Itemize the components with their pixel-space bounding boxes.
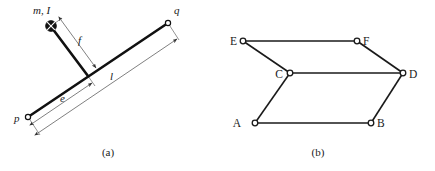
caption-panel-b: (b) <box>312 146 325 159</box>
figure-root: m, I p q f e l (a) A <box>0 0 435 171</box>
joint-p-icon <box>25 114 30 119</box>
label-dimension-f: f <box>78 34 83 46</box>
label-node-F: F <box>363 35 369 47</box>
label-node-p: p <box>13 112 20 124</box>
label-dimension-e: e <box>60 92 65 104</box>
dimension-line-l <box>38 39 177 133</box>
point-mass <box>46 21 57 32</box>
node-C-icon <box>287 70 293 76</box>
label-node-E: E <box>230 35 237 47</box>
figure-canvas: m, I p q f e l (a) A <box>0 0 435 171</box>
label-mass-properties: m, I <box>33 4 51 16</box>
node-F-icon <box>354 38 360 44</box>
caption-panel-a: (a) <box>102 146 115 159</box>
panel-b: A B C D E F (b) <box>230 35 417 159</box>
edge-C-A <box>255 73 290 123</box>
panel-a: m, I p q f e l (a) <box>13 4 180 159</box>
node-E-icon <box>240 38 246 44</box>
label-node-B: B <box>377 117 385 129</box>
label-node-D: D <box>409 68 417 80</box>
node-D-icon <box>400 70 406 76</box>
node-A-icon <box>252 120 258 126</box>
rigid-bar-pq <box>28 23 168 117</box>
label-node-q: q <box>174 4 180 16</box>
mass-stem <box>52 28 88 76</box>
edge-B-D <box>371 73 403 123</box>
node-B-icon <box>368 120 374 126</box>
extension-lines-a <box>28 18 179 135</box>
label-node-A: A <box>233 117 242 129</box>
label-node-C: C <box>275 68 283 80</box>
label-dimension-l: l <box>110 70 113 82</box>
joint-q-icon <box>165 20 170 25</box>
